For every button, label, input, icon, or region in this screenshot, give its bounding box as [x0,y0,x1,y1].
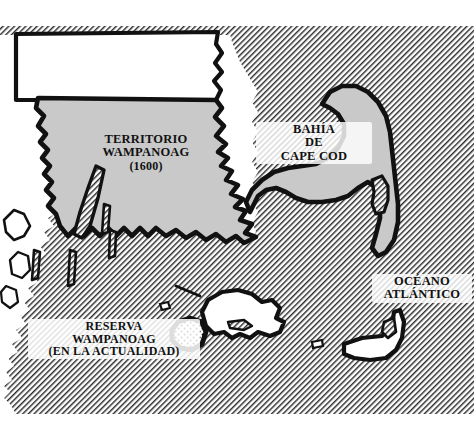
elizabeth-island-small [10,252,30,278]
map-figure: TERRITORIO WAMPANOAG (1600) BAHÍA DE CAP… [0,0,474,423]
northern-massachusetts-landmass [16,32,222,100]
coastal-inlet-narrow-d [109,230,116,258]
land-north-of-territory [16,32,222,100]
offshore-speck-b [312,340,323,348]
offshore-speck-a [160,302,170,310]
cape-cod-inner-notch [372,176,388,214]
coastal-inlet-narrow-b [68,250,76,286]
reserve-wampanoag-shape[interactable] [172,318,206,350]
map-canvas [0,0,474,423]
coastal-inlet-narrow-c [32,250,40,280]
nantucket-harbor-notch [382,318,396,338]
